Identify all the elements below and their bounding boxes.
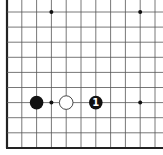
stones: 1 <box>30 96 103 110</box>
stone-move-number: 1 <box>92 97 99 108</box>
star-point-icon <box>49 101 53 105</box>
go-board: 1 <box>0 0 163 155</box>
star-point-icon <box>138 10 142 14</box>
board-grid <box>6 0 163 148</box>
black-stone-icon <box>30 96 44 110</box>
star-point-icon <box>49 10 53 14</box>
white-stone-icon <box>59 96 73 110</box>
star-point-icon <box>138 101 142 105</box>
